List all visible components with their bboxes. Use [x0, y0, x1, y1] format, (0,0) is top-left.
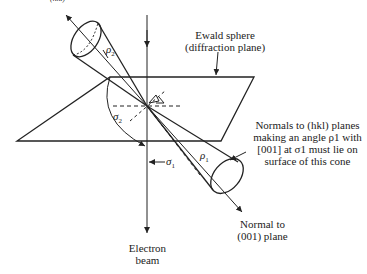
diagram-canvas: (hkl) Ewald sphere (diffraction plane) N… — [0, 0, 367, 274]
normals-cone-label: Normals to (hkl) planes making an angle … — [250, 119, 365, 167]
normal-001-label: Normal to (001) plane — [225, 218, 300, 242]
electron-beam-line2: beam — [120, 254, 175, 266]
normals-label-line2: making an angle ρ1 with — [250, 131, 365, 143]
normals-label-line4: surface of this cone — [250, 155, 365, 167]
rho2-symbol: ρ2 — [106, 43, 115, 58]
electron-beam-line1: Electron — [120, 242, 175, 254]
electron-beam-label: Electron beam — [120, 242, 175, 266]
ewald-label: Ewald sphere (diffraction plane) — [185, 29, 265, 53]
normal-001-axis — [147, 106, 242, 212]
normal-001-line1: Normal to — [225, 218, 300, 230]
normals-label-line1: Normals to (hkl) planes — [250, 119, 365, 131]
rho1-symbol: ρ1 — [200, 149, 209, 164]
normal-001-line2: (001) plane — [225, 230, 300, 242]
sigma1-symbol: σ1 — [166, 155, 175, 170]
ewald-label-line2: (diffraction plane) — [185, 41, 265, 53]
ewald-label-line1: Ewald sphere — [185, 29, 265, 41]
sigma2-symbol: σ2 — [113, 110, 122, 125]
top-fragment: (hkl) — [50, 0, 65, 5]
normals-label-line3: [001] at σ1 must lie on — [250, 143, 365, 155]
